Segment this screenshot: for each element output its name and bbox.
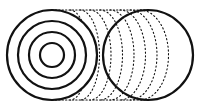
depth-arc [130, 10, 157, 100]
diagram-canvas [0, 0, 197, 111]
back-face-circle [103, 10, 193, 100]
back-face-outline [103, 10, 193, 100]
cylinder-diagram [0, 0, 197, 111]
depth-arc [120, 10, 146, 100]
front-face-concentric-rings [7, 10, 97, 100]
depth-arc [140, 10, 169, 100]
